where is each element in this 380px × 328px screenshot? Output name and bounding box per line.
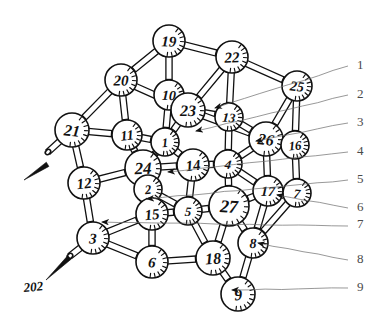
lattice-node-5[interactable]: 5: [174, 197, 202, 225]
lattice-node-15[interactable]: 15: [136, 198, 168, 230]
node-label: 15: [144, 206, 161, 224]
node-label: 27: [218, 196, 239, 217]
bond: [181, 41, 220, 57]
bond: [80, 87, 115, 122]
node-label: 19: [161, 33, 177, 49]
lattice-node-27[interactable]: 27: [209, 186, 249, 226]
lattice-node-18[interactable]: 18: [196, 241, 230, 275]
figure-canvas: 1922202510231321112611641424122177527153…: [0, 0, 380, 328]
callout-label-layer: 202: [22, 278, 44, 295]
bond: [86, 128, 116, 137]
lattice-node-21[interactable]: 21: [55, 113, 89, 147]
margin-label-3: 3: [357, 114, 364, 129]
margin-label-9: 9: [357, 279, 364, 294]
node-label: 11: [120, 127, 135, 143]
bond: [96, 169, 129, 183]
lattice-node-7[interactable]: 7: [283, 179, 311, 207]
bond: [292, 156, 299, 182]
lattice-node-22[interactable]: 22: [216, 41, 248, 73]
bond: [195, 65, 227, 101]
node-label: 1: [161, 135, 169, 150]
lattice-node-23[interactable]: 23: [171, 93, 205, 127]
node-label: 14: [185, 157, 202, 175]
margin-label-layer: 123456789: [357, 57, 364, 294]
lattice-node-25[interactable]: 25: [282, 71, 312, 101]
margin-label-5: 5: [357, 171, 364, 186]
bond: [104, 216, 141, 236]
lattice-node-13[interactable]: 13: [215, 103, 243, 131]
node-label: 22: [223, 49, 240, 66]
node-label: 21: [62, 121, 81, 140]
lattice-node-6[interactable]: 6: [136, 246, 168, 278]
lattice-node-11[interactable]: 11: [112, 120, 142, 150]
node-layer: 1922202510231321112611641424122177527153…: [55, 25, 312, 311]
lattice-node-20[interactable]: 20: [105, 64, 137, 96]
margin-label-7: 7: [357, 216, 364, 231]
lattice-node-17[interactable]: 17: [253, 176, 283, 206]
bond: [292, 98, 299, 134]
node-label: 12: [76, 175, 93, 193]
lattice-node-19[interactable]: 19: [153, 25, 185, 57]
margin-label-4: 4: [357, 143, 364, 158]
bond: [104, 240, 141, 260]
lower-left-callout-arrow: [46, 256, 71, 280]
lattice-diagram: 1922202510231321112611641424122177527153…: [0, 0, 380, 328]
bond: [166, 54, 172, 83]
upper-left-direction-arrow: [24, 162, 49, 180]
node-label: 20: [112, 72, 129, 88]
node-label: 16: [288, 137, 303, 153]
bond: [165, 256, 199, 264]
margin-label-1: 1: [357, 57, 364, 72]
bond: [227, 70, 235, 106]
lattice-node-12[interactable]: 12: [68, 167, 100, 199]
lattice-node-9[interactable]: 9: [221, 277, 255, 311]
margin-label-6: 6: [357, 199, 364, 214]
lattice-node-3[interactable]: 3: [77, 222, 109, 254]
lattice-node-1[interactable]: 1: [151, 128, 179, 156]
node-label: 17: [261, 184, 277, 200]
lattice-node-14[interactable]: 14: [177, 149, 209, 181]
bond: [83, 195, 94, 225]
node-label: 23: [179, 102, 196, 119]
free-arrow-layer: [24, 162, 71, 280]
callout-label-202: 202: [22, 278, 44, 295]
bond: [263, 153, 270, 179]
node-label: 8: [249, 236, 256, 251]
lattice-node-8[interactable]: 8: [238, 228, 268, 258]
leader-line-8: [258, 243, 348, 260]
margin-label-8: 8: [357, 251, 364, 266]
bond: [243, 60, 288, 84]
bond: [119, 93, 129, 124]
node-label: 18: [204, 249, 221, 267]
margin-label-2: 2: [357, 86, 364, 101]
node-label: 3: [88, 230, 97, 246]
